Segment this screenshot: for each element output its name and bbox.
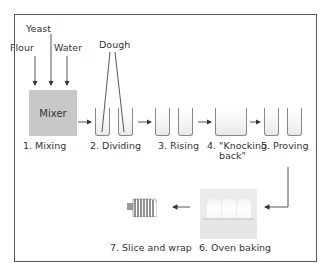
step-5-caption: 5. Proving [261, 141, 308, 151]
connector-arrows [0, 0, 334, 273]
step-4-caption-line2: back" [219, 151, 246, 161]
step-7-caption: 7. Slice and wrap [110, 243, 192, 253]
step-1-caption: 1. Mixing [23, 141, 66, 151]
step-6-caption: 6. Oven baking [199, 243, 271, 253]
step-3-caption: 3. Rising [158, 141, 199, 151]
step-2-caption: 2. Dividing [90, 141, 141, 151]
